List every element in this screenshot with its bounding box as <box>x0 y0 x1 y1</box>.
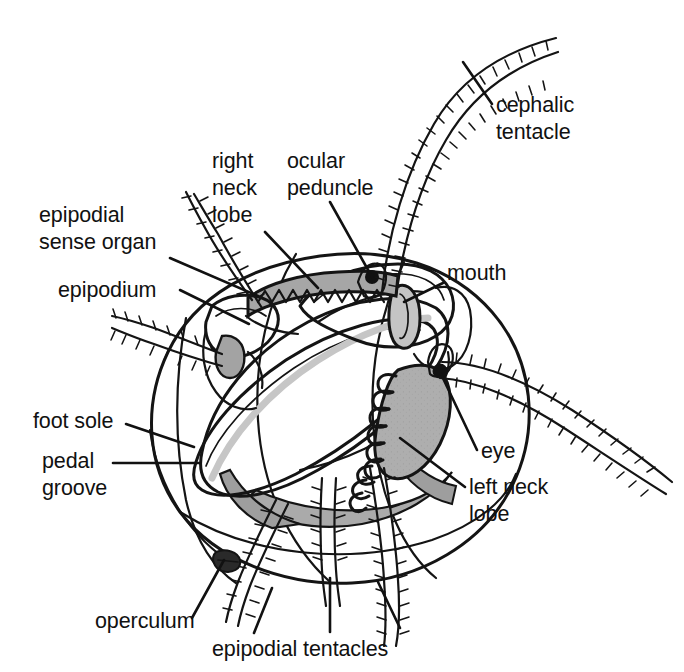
anatomy-figure: cephalictentaclerightnecklobeocularpedun… <box>0 0 684 672</box>
label-line: right <box>212 149 253 173</box>
label-line: peduncle <box>287 176 373 200</box>
label-foot-sole: foot sole <box>33 409 113 433</box>
label-line: lobe <box>469 502 509 526</box>
label-line: sense organ <box>39 230 156 254</box>
label-line: epipodial <box>39 203 124 227</box>
label-eye: eye <box>481 439 515 463</box>
label-line: tentacle <box>496 120 571 144</box>
label-line: epipodium <box>58 278 156 302</box>
label-operculum: operculum <box>95 609 194 633</box>
label-line: ocular <box>287 149 345 173</box>
label-line: eye <box>481 439 515 463</box>
label-line: lobe <box>212 203 252 227</box>
label-line: operculum <box>95 609 194 633</box>
label-line: groove <box>42 476 107 500</box>
label-line: foot sole <box>33 409 113 433</box>
label-right-neck-lobe: rightnecklobe <box>212 149 257 227</box>
label-mouth: mouth <box>447 261 506 285</box>
label-line: cephalic <box>496 93 574 117</box>
label-line: mouth <box>447 261 506 285</box>
epipodial-sense-organ <box>216 336 245 378</box>
label-line: pedal <box>42 449 94 473</box>
eye-left <box>433 364 448 379</box>
diagram-canvas: cephalictentaclerightnecklobeocularpedun… <box>0 0 684 672</box>
label-line: epipodial tentacles <box>212 637 388 661</box>
operculum <box>213 550 240 571</box>
label-epipodial-tentacles: epipodial tentacles <box>212 637 388 661</box>
label-line: left neck <box>469 475 549 499</box>
label-epipodium: epipodium <box>58 278 156 302</box>
label-line: neck <box>212 176 257 200</box>
